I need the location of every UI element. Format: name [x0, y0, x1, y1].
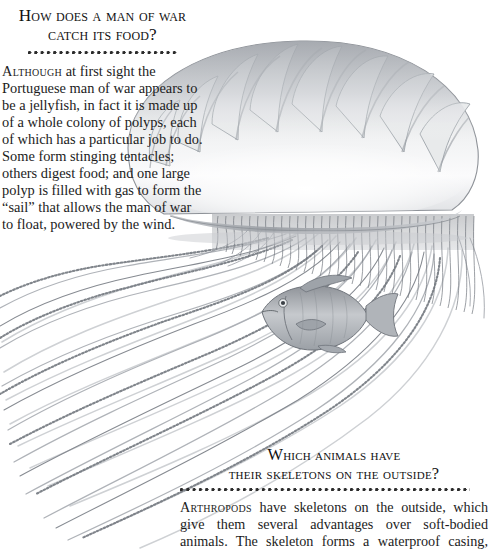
article-arthropods: Which animals have their skeletons on th… [180, 446, 488, 551]
heading-top-line-1: How does a man of war [0, 6, 205, 25]
lead-word-top: Although [2, 63, 62, 79]
heading-bottom-dotted-rule [180, 488, 470, 492]
heading-top-line-2: catch its food? [0, 25, 205, 44]
heading-top-dotted-rule [28, 51, 178, 55]
heading-bottom-line-2: their skeletons on the outside? [180, 465, 488, 484]
article-man-of-war: How does a man of war catch its food? Al… [0, 0, 205, 233]
page-title-bottom: Which animals have their skeletons on th… [180, 446, 488, 483]
polyp-cluster [212, 214, 475, 314]
lead-word-bottom: Arthropods [180, 499, 252, 515]
body-top-rest: at first sight the Portuguese man of war… [2, 63, 203, 232]
page-title-top: How does a man of war catch its food? [0, 0, 205, 45]
heading-bottom-line-1: Which animals have [180, 446, 488, 465]
body-text-top: Although at first sight the Portuguese m… [0, 63, 205, 233]
page-canvas: How does a man of war catch its food? Al… [0, 0, 488, 551]
captured-fish [262, 275, 398, 353]
body-text-bottom: Arthropods have skeletons on the outside… [180, 499, 488, 551]
